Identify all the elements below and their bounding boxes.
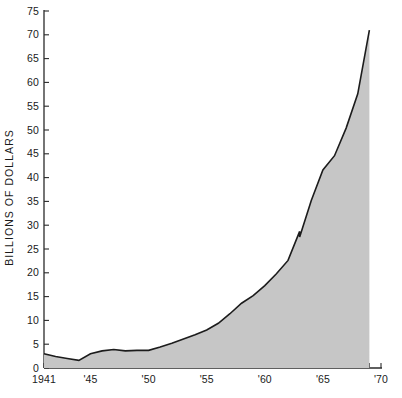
y-tick-label: 60 [27,76,39,88]
chart-container: 051015202530354045505560657075 1941'45'5… [0,0,402,398]
y-tick-label: 20 [27,266,39,278]
y-tick-label: 10 [27,314,39,326]
series-area-fill [44,30,369,368]
y-tick-label: 30 [27,219,39,231]
area-chart: 051015202530354045505560657075 1941'45'5… [0,0,402,398]
y-tick-label: 45 [27,147,39,159]
x-tick-label: '45 [83,373,97,385]
y-axis-title-group: BILLIONS OF DOLLARS [3,129,15,266]
y-tick-label: 25 [27,243,39,255]
x-tick-label: '60 [258,373,272,385]
x-tick-label: '65 [316,373,330,385]
y-tick-label: 35 [27,195,39,207]
x-tick-label: 1941 [32,373,56,385]
y-tick-label: 50 [27,124,39,136]
y-tick-label: 0 [33,362,39,374]
y-tick-labels-group: 051015202530354045505560657075 [27,5,39,374]
y-tick-label: 70 [27,28,39,40]
y-tick-label: 15 [27,290,39,302]
series-group [44,30,369,368]
y-tick-label: 5 [33,338,39,350]
x-tick-label: '50 [142,373,156,385]
y-tick-label: 75 [27,5,39,17]
y-tick-label: 55 [27,100,39,112]
y-axis-title: BILLIONS OF DOLLARS [3,129,15,266]
y-tick-label: 40 [27,171,39,183]
x-tick-labels-group: 1941'45'50'55'60'65'70 [32,373,388,385]
x-tick-label: '55 [200,373,214,385]
y-tick-label: 65 [27,52,39,64]
x-tick-label: '70 [374,373,388,385]
